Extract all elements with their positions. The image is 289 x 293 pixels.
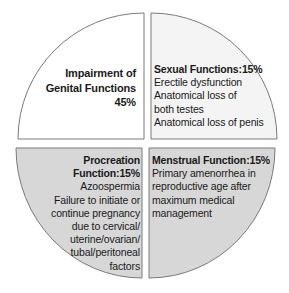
sexual-functions-item: Anatomical loss of [154,89,276,102]
procreation-function-item: factors [20,260,140,273]
procreation-function-item: Azoospermia [20,180,140,193]
quadrant-top-left-label: Impairment of Genital Functions 45% [40,66,136,110]
procreation-function-item: continue pregnancy [20,207,140,220]
menstrual-function-item: management [152,207,276,220]
quadrant-top-right-label: Sexual Functions:15% Erectile dysfunctio… [154,63,276,129]
sexual-functions-item: Anatomical loss of penis [154,116,276,129]
impairment-percentage: 45% [40,95,136,110]
procreation-function-item: uterine/ovarian/ [20,233,140,246]
sexual-functions-item: both testes [154,103,276,116]
impairment-label-line-1: Impairment of [40,66,136,81]
quadrant-bottom-left-label: Procreation Function:15% Azoospermia Fai… [20,154,140,273]
procreation-function-item: Failure to initiate or [20,194,140,207]
quadrant-bottom-right-label: Menstrual Function:15% Primary amenorrhe… [152,154,276,220]
procreation-function-item: due to cervical/ [20,220,140,233]
impairment-label-line-2: Genital Functions [40,81,136,96]
menstrual-function-item: reproductive age after [152,180,276,193]
menstrual-function-item: maximum medical [152,194,276,207]
genital-function-impairment-diagram: Impairment of Genital Functions 45% Sexu… [0,0,289,293]
procreation-function-item: tubal/peritoneal [20,246,140,259]
sexual-functions-title: Sexual Functions:15% [154,63,276,76]
menstrual-function-item: Primary amenorrhea in [152,167,276,180]
sexual-functions-item: Erectile dysfunction [154,76,276,89]
procreation-function-title: Procreation Function:15% [20,154,140,180]
menstrual-function-title: Menstrual Function:15% [152,154,276,167]
